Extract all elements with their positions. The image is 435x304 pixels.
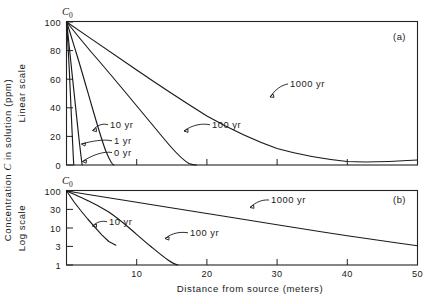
y-axis-title-group: Concentration C in solution (ppm) Linear… [2, 64, 27, 252]
figure-container: Concentration C in solution (ppm) Linear… [0, 0, 435, 304]
panel-b-y-ticks [67, 191, 74, 265]
panel-b-ytick-30: 30 [50, 205, 61, 215]
panel-a-ytick-100: 100 [44, 18, 61, 28]
chart-svg: Concentration C in solution (ppm) Linear… [0, 0, 435, 304]
panel-a-label: (a) [393, 31, 406, 42]
panel-a-curve-labels: 0 yr 1 yr 10 yr 100 yr 1000 yr [82, 78, 325, 163]
y-axis-label-log-scale: Log scale [16, 205, 27, 251]
panel-a: C0 100 80 60 40 20 0 [44, 6, 417, 171]
panel-a-ytick-40: 40 [50, 103, 61, 113]
panel-b: C0 100 30 10 3 1 [44, 175, 423, 279]
panel-b-ytick-3: 3 [55, 242, 61, 252]
y-axis-main-title: Concentration C in solution (ppm) [2, 79, 13, 241]
xtick-20: 20 [201, 269, 212, 279]
xtick-50: 50 [412, 269, 423, 279]
curve-1yr-panel-a [67, 22, 83, 165]
panel-b-c0-marker: C0 [62, 175, 73, 189]
curve-label-1000yr-b: 1000 yr [271, 194, 306, 205]
x-axis-ticklabels: 10 20 30 40 50 [131, 269, 423, 279]
panel-a-x-ticks [137, 159, 348, 165]
curve-label-10yr-a: 10 yr [110, 119, 133, 130]
xtick-40: 40 [342, 269, 353, 279]
curve-label-100yr-a: 100 yr [212, 119, 241, 130]
xtick-30: 30 [272, 269, 283, 279]
panel-a-y-ticklabels: 100 80 60 40 20 0 [44, 18, 61, 171]
panel-a-ytick-80: 80 [50, 46, 61, 56]
panel-b-ytick-1: 1 [55, 261, 61, 271]
panel-a-ytick-60: 60 [50, 75, 61, 85]
curve-label-0yr-a: 0 yr [114, 147, 132, 158]
curve-label-1000yr-a: 1000 yr [290, 78, 325, 89]
panel-a-ytick-0: 0 [55, 161, 61, 171]
curve-0yr-panel-a [67, 22, 74, 165]
panel-b-curves [67, 191, 418, 265]
panel-b-y-ticklabels: 100 30 10 3 1 [44, 187, 61, 271]
curve-100yr-panel-b [67, 191, 178, 265]
x-axis-title: Distance from source (meters) [177, 283, 323, 294]
panel-b-ytick-100: 100 [44, 187, 61, 197]
y-axis-label-linear-scale: Linear scale [16, 64, 27, 123]
panel-b-frame [67, 191, 418, 266]
panel-b-label: (b) [393, 194, 406, 205]
xtick-10: 10 [131, 269, 142, 279]
panel-b-ytick-10: 10 [50, 224, 61, 234]
curve-label-10yr-b: 10 yr [109, 216, 132, 227]
panel-a-c0-marker: C0 [62, 6, 73, 20]
curve-label-1yr-a: 1 yr [114, 135, 132, 146]
panel-a-ytick-20: 20 [50, 132, 61, 142]
curve-label-100yr-b: 100 yr [190, 227, 219, 238]
